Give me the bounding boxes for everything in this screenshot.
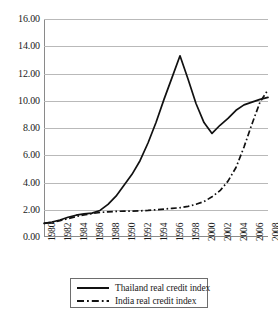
- y-tick-4.00: 4.00: [0, 178, 40, 188]
- x-tick-2002: 2002: [224, 223, 234, 241]
- y-tick-14.00: 14.00: [0, 41, 40, 51]
- x-tick-2006: 2006: [256, 223, 266, 241]
- y-tick-6.00: 6.00: [0, 150, 40, 160]
- x-tick-2008: 2008: [272, 223, 278, 241]
- legend-swatch-dash-dot: [76, 296, 110, 306]
- x-tick-1982: 1982: [64, 223, 74, 241]
- x-tick-1992: 1992: [144, 223, 154, 241]
- y-tick-10.00: 10.00: [0, 96, 40, 106]
- y-tick-16.00: 16.00: [0, 14, 40, 24]
- x-tick-1986: 1986: [96, 223, 106, 241]
- x-tick-1988: 1988: [112, 223, 122, 241]
- legend-item-india: India real credit index: [76, 295, 202, 307]
- x-tick-1990: 1990: [128, 223, 138, 241]
- y-tick-12.00: 12.00: [0, 69, 40, 79]
- legend-swatch-solid: [76, 283, 110, 293]
- x-tick-2004: 2004: [240, 223, 250, 241]
- x-tick-1980: 1980: [48, 223, 58, 241]
- legend: Thailand real credit index India real cr…: [70, 278, 208, 308]
- line-series-thailand: [44, 56, 268, 224]
- y-tick-0.00: 0.00: [0, 232, 40, 242]
- legend-item-thailand: Thailand real credit index: [76, 282, 202, 294]
- x-tick-1994: 1994: [160, 223, 170, 241]
- legend-label-thailand: Thailand real credit index: [115, 283, 210, 293]
- plot-area: [44, 19, 268, 237]
- x-tick-1996: 1996: [176, 223, 186, 241]
- x-tick-1984: 1984: [80, 223, 90, 241]
- chart-figure: 0.002.004.006.008.0010.0012.0014.0016.00…: [0, 0, 278, 324]
- line-series-india: [44, 90, 268, 224]
- x-tick-2000: 2000: [208, 223, 218, 241]
- x-tick-1998: 1998: [192, 223, 202, 241]
- caption-clipped: [2, 316, 232, 322]
- y-tick-2.00: 2.00: [0, 205, 40, 215]
- legend-label-india: India real credit index: [115, 296, 196, 306]
- y-tick-8.00: 8.00: [0, 123, 40, 133]
- series-layer: [44, 19, 268, 237]
